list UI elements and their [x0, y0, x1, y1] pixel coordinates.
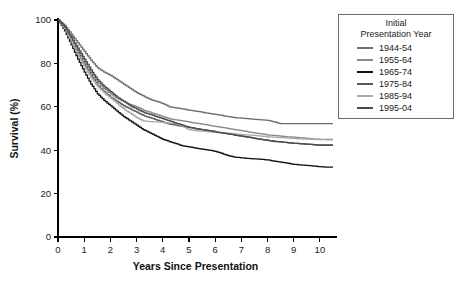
svg-text:40: 40 [40, 145, 51, 156]
legend-swatch-1995-04 [357, 107, 373, 109]
svg-text:60: 60 [40, 101, 51, 112]
legend-swatch-1955-64 [357, 59, 373, 61]
legend-swatch-1944-54 [357, 47, 373, 49]
legend-label: 1955-64 [379, 54, 412, 66]
x-axis-title: Years Since Presentation [133, 260, 258, 272]
legend-item-1965-74: 1965-74 [343, 66, 449, 78]
legend-item-1975-84: 1975-84 [343, 78, 449, 90]
legend-title: Initial Presentation Year [343, 18, 449, 40]
legend-swatch-1965-74 [357, 71, 373, 73]
svg-text:1: 1 [82, 244, 87, 255]
y-axis-title: Survival (%) [8, 98, 20, 158]
svg-text:20: 20 [40, 188, 51, 199]
svg-text:10: 10 [315, 244, 326, 255]
legend-label: 1985-94 [379, 90, 412, 102]
svg-text:3: 3 [134, 244, 139, 255]
svg-text:9: 9 [291, 244, 296, 255]
legend-item-1995-04: 1995-04 [343, 102, 449, 114]
svg-text:80: 80 [40, 58, 51, 69]
legend-label: 1965-74 [379, 66, 412, 78]
survival-curve-1944-54 [58, 20, 333, 124]
svg-text:6: 6 [212, 244, 217, 255]
survival-chart-figure: 020406080100 012345678910 Survival (%) Y… [0, 0, 464, 282]
svg-text:4: 4 [160, 244, 165, 255]
x-axis-ticks: 012345678910 [55, 237, 325, 255]
svg-text:8: 8 [265, 244, 270, 255]
legend-label: 1995-04 [379, 102, 412, 114]
legend-swatch-1975-84 [357, 83, 373, 85]
svg-text:100: 100 [35, 14, 51, 25]
legend-title-line-2: Presentation Year [343, 29, 449, 40]
legend-item-1944-54: 1944-54 [343, 42, 449, 54]
legend-title-line-1: Initial [343, 18, 449, 29]
legend-label: 1944-54 [379, 42, 412, 54]
legend-item-1985-94: 1985-94 [343, 90, 449, 102]
survival-curves [58, 20, 333, 167]
legend-item-1955-64: 1955-64 [343, 54, 449, 66]
survival-curve-1965-74 [58, 20, 333, 167]
svg-text:2: 2 [108, 244, 113, 255]
svg-text:7: 7 [239, 244, 244, 255]
chart-legend: Initial Presentation Year 1944-541955-64… [338, 14, 454, 119]
svg-text:5: 5 [186, 244, 191, 255]
legend-swatch-1985-94 [357, 95, 373, 97]
svg-text:0: 0 [46, 231, 51, 242]
y-axis-ticks: 020406080100 [35, 14, 58, 242]
legend-label: 1975-84 [379, 78, 412, 90]
legend-items: 1944-541955-641965-741975-841985-941995-… [343, 42, 449, 114]
svg-text:0: 0 [55, 244, 60, 255]
